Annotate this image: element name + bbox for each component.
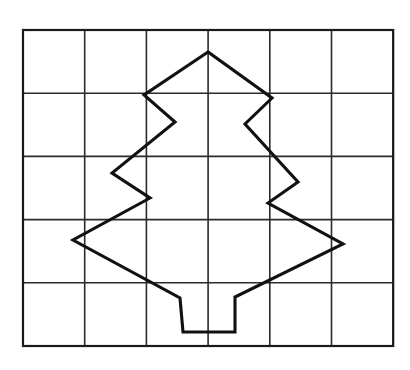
grid-tree-figure — [0, 0, 410, 370]
grid-vertical-lines — [23, 30, 393, 346]
figure-canvas — [0, 0, 410, 370]
grid-group — [23, 30, 393, 346]
